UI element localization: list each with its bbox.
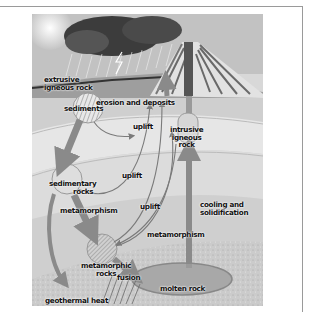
label-sediments: sediments (64, 105, 103, 113)
label-line: rock (170, 141, 203, 149)
label-molten-rock: molten rock (160, 285, 205, 293)
label-extrusive-igneous-rock: extrusive igneous rock (44, 76, 92, 91)
rock-cycle-diagram: extrusive igneous rock erosion and depos… (32, 14, 263, 306)
label-line: rocks (49, 188, 96, 196)
label-fusion: fusion (117, 274, 140, 282)
label-sedimentary-rocks: sedimentary rocks (49, 180, 96, 195)
label-uplift-3: uplift (140, 203, 160, 211)
label-line: igneous rock (44, 84, 92, 92)
metamorphic-rocks-circle (87, 234, 117, 264)
label-metamorphism-2: metamorphism (147, 231, 205, 239)
volcano-conduit (184, 42, 193, 96)
label-intrusive-igneous-rock: intrusive igneous rock (170, 126, 203, 149)
label-metamorphism-1: metamorphism (60, 207, 118, 215)
label-cooling-and-solidification: cooling and solidification (200, 201, 248, 216)
label-uplift-2: uplift (122, 172, 142, 180)
frame-top-border (0, 6, 302, 7)
diagram-illustration (32, 14, 263, 306)
frame-right-border (302, 6, 303, 312)
arrow-erosion-up (166, 80, 167, 96)
label-uplift-1: uplift (133, 123, 153, 131)
label-geothermal-heat: geothermal heat (45, 297, 108, 305)
label-line: solidification (200, 209, 248, 217)
label-erosion-and-deposits: erosion and deposits (96, 99, 175, 107)
